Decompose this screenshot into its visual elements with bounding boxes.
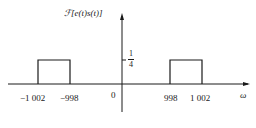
x-tick-label-1002: 1 002	[190, 94, 210, 103]
fraction-denominator: 4	[129, 61, 133, 69]
x-tick-label-neg-1002: −1 002	[20, 94, 45, 103]
chart-title: ℱ[e(t)s(t)]	[64, 8, 103, 18]
y-tick-label-quarter: 1 4	[128, 50, 134, 69]
x-axis-label: ω	[240, 91, 246, 100]
y-axis-arrow-icon	[120, 13, 124, 20]
x-axis-arrow-icon	[243, 82, 250, 86]
right-pulse	[170, 60, 202, 84]
x-tick-label-neg-998: −998	[60, 94, 79, 103]
left-pulse	[38, 60, 70, 84]
origin-label: 0	[111, 91, 116, 100]
x-tick-label-998: 998	[164, 94, 178, 103]
fraction-numerator: 1	[129, 50, 133, 58]
